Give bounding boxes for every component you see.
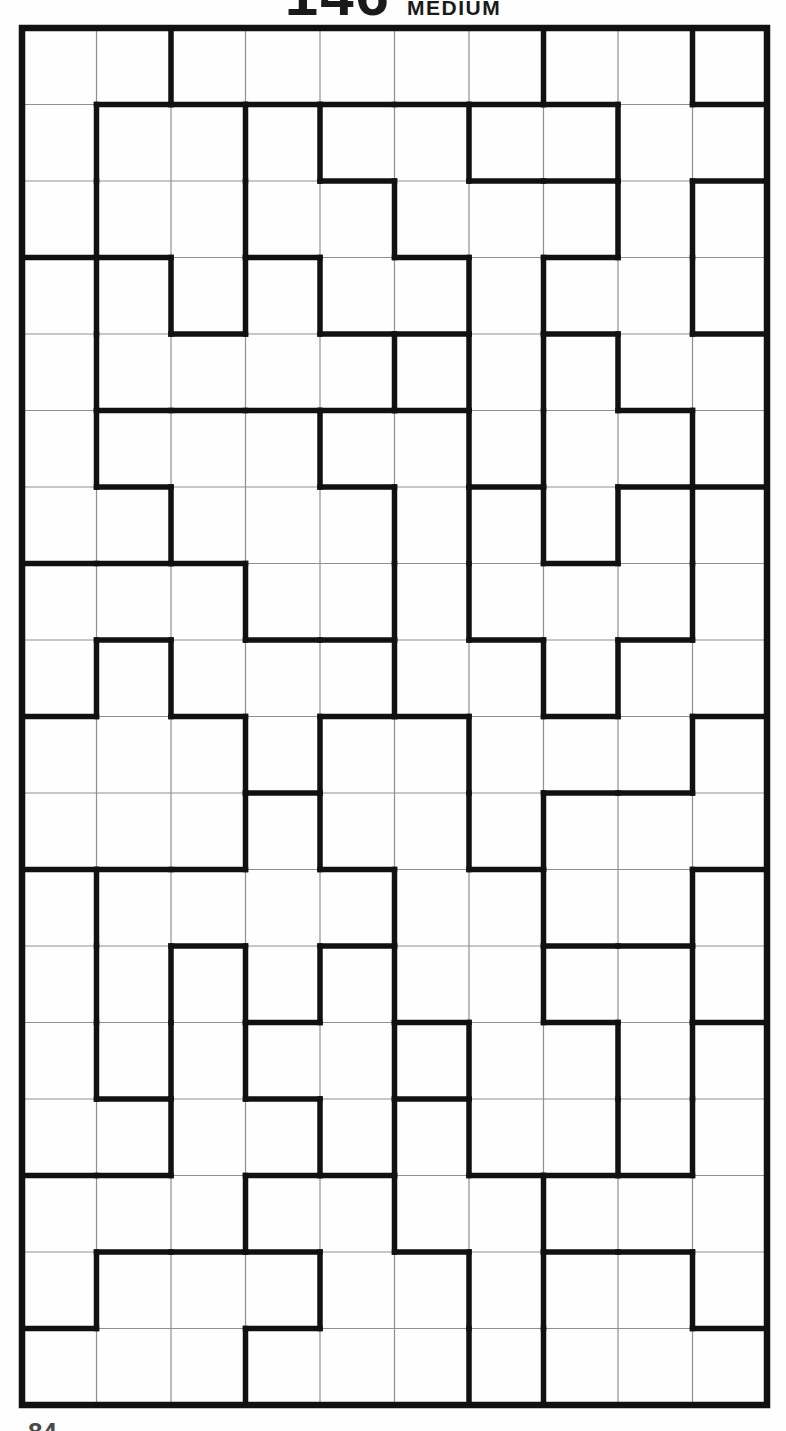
page-number: 84 (28, 1419, 57, 1431)
puzzle-page: 146 MEDIUM 84 (0, 0, 786, 1431)
puzzle-grid[interactable] (0, 0, 786, 1431)
